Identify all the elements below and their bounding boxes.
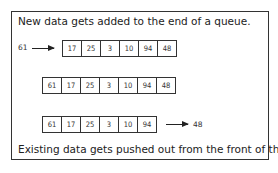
queue-cell: 10: [118, 77, 138, 94]
queue-cell: 25: [81, 40, 101, 57]
queue-cell: 94: [138, 40, 158, 57]
queue-cell: 61: [42, 77, 62, 94]
top-caption: New data gets added to the end of a queu…: [18, 15, 251, 27]
queue-step3: 61 17 25 3 10 94: [42, 116, 157, 133]
queue-cell: 3: [99, 77, 119, 94]
queue-cell: 17: [62, 40, 82, 57]
queue-cell: 3: [100, 40, 120, 57]
queue-cell: 94: [137, 116, 157, 133]
outgoing-value: 48: [193, 120, 203, 129]
incoming-value: 61: [18, 43, 28, 52]
queue-step2: 61 17 25 3 10 94 48: [42, 77, 176, 94]
queue-step1: 17 25 3 10 94 48: [62, 40, 177, 57]
queue-cell: 25: [80, 116, 100, 133]
queue-cell: 3: [99, 116, 119, 133]
queue-cell: 48: [157, 40, 177, 57]
arrow-right-icon: [32, 48, 54, 49]
queue-cell: 17: [61, 116, 81, 133]
queue-cell: 48: [156, 77, 176, 94]
queue-cell: 10: [118, 116, 138, 133]
queue-cell: 25: [80, 77, 100, 94]
queue-cell: 61: [42, 116, 62, 133]
queue-cell: 10: [119, 40, 139, 57]
queue-cell: 94: [137, 77, 157, 94]
queue-cell: 17: [61, 77, 81, 94]
bottom-caption: Existing data gets pushed out from the f…: [18, 143, 278, 155]
arrow-right-icon: [166, 124, 188, 125]
